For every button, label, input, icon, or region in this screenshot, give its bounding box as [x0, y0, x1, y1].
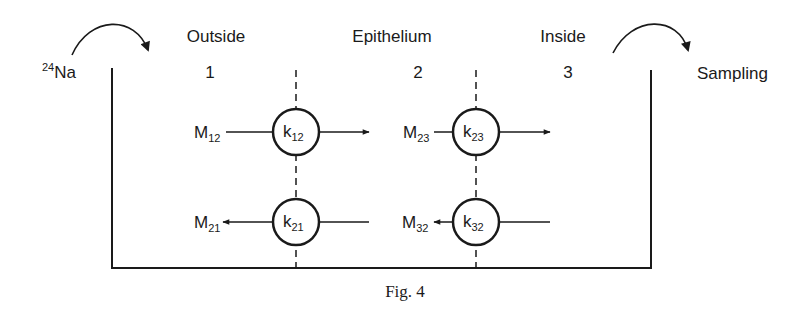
flux-label-m21: M21	[194, 213, 220, 234]
flux-label-m23: M23	[403, 123, 429, 144]
compartment-number-3: 3	[563, 63, 572, 82]
flux-row-backward	[223, 199, 550, 245]
flux-row-forward	[226, 109, 550, 155]
tracer-addition-arrow	[72, 24, 148, 55]
compartment-name-epithelium: Epithelium	[352, 27, 431, 46]
compartment-number-1: 1	[205, 63, 214, 82]
compartment-number-2: 2	[413, 63, 422, 82]
sampling-arrow	[613, 24, 688, 53]
compartment-name-inside: Inside	[540, 27, 585, 46]
sampling-label: Sampling	[697, 64, 768, 83]
container-outline	[111, 68, 652, 268]
flux-label-m32: M32	[402, 213, 428, 234]
compartment-diagram: 24Na Sampling Outside 1 Epithelium 2 Ins…	[0, 0, 804, 315]
compartment-name-outside: Outside	[187, 27, 246, 46]
figure-caption: Fig. 4	[385, 282, 425, 301]
tracer-label: 24Na	[42, 61, 77, 82]
flux-label-m12: M12	[194, 123, 220, 144]
